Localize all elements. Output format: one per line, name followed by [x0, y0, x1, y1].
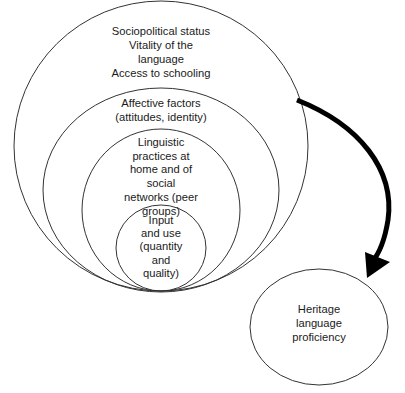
label-line: (quantity	[121, 240, 201, 253]
label-line: and	[121, 254, 201, 267]
label-line: Input	[121, 214, 201, 227]
label-line: networks (peer	[111, 191, 211, 205]
affective-circle-label: Affective factors (attitudes, identity)	[91, 96, 231, 124]
label-line: (attitudes, identity)	[91, 110, 231, 124]
arrow-shaft	[297, 100, 389, 262]
outer-circle-label: Sociopolitical status Vitality of the la…	[91, 24, 231, 80]
label-line: Linguistic	[111, 136, 211, 150]
label-line: Access to schooling	[91, 66, 231, 80]
input-circle-label: Input and use (quantity and quality)	[121, 214, 201, 280]
label-line: proficiency	[274, 330, 364, 344]
linguistic-circle-label: Linguistic practices at home and of soci…	[111, 136, 211, 218]
label-line: Vitality of the	[91, 38, 231, 52]
label-line: Affective factors	[91, 96, 231, 110]
label-line: home and of	[111, 163, 211, 177]
label-line: language	[91, 52, 231, 66]
label-line: language	[274, 316, 364, 330]
label-line: social	[111, 177, 211, 191]
label-line: Sociopolitical status	[91, 24, 231, 38]
label-line: practices at	[111, 150, 211, 164]
outcome-label: Heritage language proficiency	[274, 302, 364, 344]
label-line: Heritage	[274, 302, 364, 316]
label-line: quality)	[121, 267, 201, 280]
label-line: and use	[121, 227, 201, 240]
